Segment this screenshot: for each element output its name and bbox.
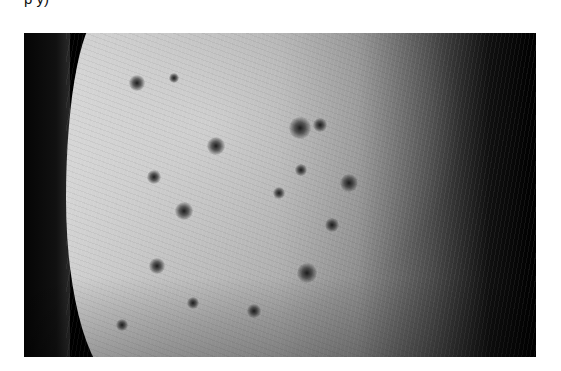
lesion-spot: [175, 202, 193, 220]
lesion-spot: [340, 174, 358, 192]
lesion-spot: [325, 218, 339, 232]
lesion-spot: [313, 118, 327, 132]
lesion-spot: [147, 170, 161, 184]
lesion-spot: [149, 258, 165, 274]
clinical-photo: [24, 33, 536, 357]
lesion-spot: [129, 75, 145, 91]
lesion-spot: [116, 319, 128, 331]
figure-caption: p y): [24, 0, 49, 7]
lesion-spot: [187, 297, 199, 309]
lesion-spot: [295, 164, 307, 176]
lesion-spot: [289, 117, 311, 139]
lesion-spot: [207, 137, 225, 155]
lesion-spot: [247, 304, 261, 318]
lesion-spot: [273, 187, 285, 199]
photo-bottom-shadow: [24, 277, 536, 357]
lesion-spot: [169, 73, 179, 83]
lesion-spot: [297, 263, 317, 283]
